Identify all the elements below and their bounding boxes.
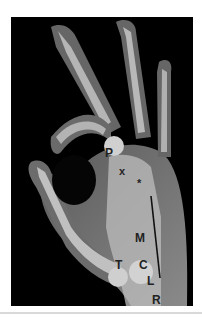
label-x: x: [119, 165, 125, 177]
label-r: R: [152, 294, 161, 306]
label-l: L: [147, 275, 154, 287]
xray-image: P x * M T C L R: [11, 17, 193, 306]
label-p: P: [105, 147, 113, 159]
hand-radiograph: [11, 17, 193, 306]
label-asterisk: *: [137, 177, 141, 189]
divider-line: [0, 312, 202, 314]
label-c: C: [139, 259, 148, 271]
label-t: T: [115, 259, 122, 271]
label-m: M: [135, 232, 145, 244]
